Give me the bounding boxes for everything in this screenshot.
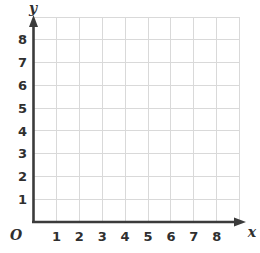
x-axis [32,218,246,227]
x-tick-label-3: 3 [98,229,107,244]
y-tick-label-1: 1 [18,192,27,207]
y-axis [29,15,38,223]
x-tick-label-1: 1 [52,229,61,244]
x-tick-label-5: 5 [143,229,152,244]
y-tick-label-2: 2 [18,169,27,184]
y-tick-label-8: 8 [18,32,27,47]
coordinate-grid-figure: 1 2 3 4 5 6 7 8 1 2 3 4 5 6 7 8 y x O [0,0,260,253]
y-axis-tick-labels: 1 2 3 4 5 6 7 8 [18,32,27,207]
grid-vertical-lines [34,17,240,222]
y-tick-label-5: 5 [18,101,27,116]
x-tick-label-4: 4 [121,229,130,244]
y-axis-label: y [28,0,38,16]
x-tick-label-6: 6 [166,229,175,244]
x-tick-label-7: 7 [189,229,198,244]
x-tick-label-2: 2 [75,229,84,244]
y-tick-label-7: 7 [18,55,27,70]
x-axis-tick-labels: 1 2 3 4 5 6 7 8 [52,229,221,244]
grid-horizontal-lines [33,17,240,222]
origin-label: O [10,227,23,243]
x-tick-label-8: 8 [212,229,221,244]
x-axis-label: x [247,224,257,240]
coordinate-plane-svg: 1 2 3 4 5 6 7 8 1 2 3 4 5 6 7 8 y x O [0,0,260,253]
y-tick-label-3: 3 [18,146,27,161]
y-tick-label-6: 6 [18,78,27,93]
y-tick-label-4: 4 [18,124,27,139]
